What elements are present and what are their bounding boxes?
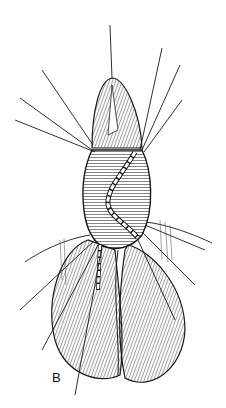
surgical-illustration	[0, 0, 226, 408]
main-body	[83, 150, 151, 248]
tip	[92, 78, 142, 148]
panel-label: B	[52, 370, 61, 385]
